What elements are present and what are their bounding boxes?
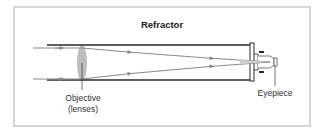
diagram-title: Refractor: [141, 19, 184, 30]
eyepiece-label: Eyepiece: [258, 88, 293, 98]
objective-label: Objective: [65, 93, 101, 103]
objective-sublabel: (lenses): [68, 104, 98, 114]
focuser-knob-top-icon: [259, 51, 264, 53]
focuser-knob-bottom-icon: [259, 71, 264, 73]
refractor-telescope-diagram: Refractor Objective (lenses) Eyepiece: [0, 0, 324, 131]
